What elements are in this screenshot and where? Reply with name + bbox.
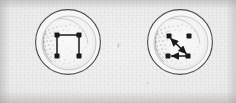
figure-root	[0, 0, 236, 103]
paper-edge-vignette	[0, 0, 236, 103]
